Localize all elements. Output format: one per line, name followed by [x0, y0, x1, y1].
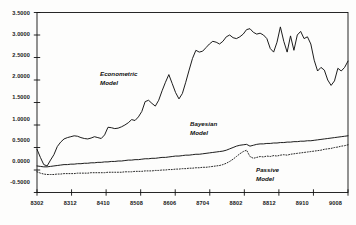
chart-figure: 3.5000 3.0000 2.5000 2.0000 1.5000 1.000… — [0, 0, 356, 225]
plot-area — [0, 0, 356, 225]
